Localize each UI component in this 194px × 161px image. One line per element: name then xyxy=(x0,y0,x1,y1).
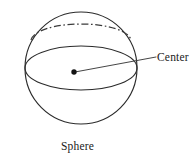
sphere-outline-circle xyxy=(25,12,137,124)
sphere-caption-label: Sphere xyxy=(61,140,94,152)
center-point-dot xyxy=(71,69,76,74)
center-label: Center xyxy=(157,51,189,63)
upper-circle-hidden-arc xyxy=(31,24,131,40)
sphere-figure: Center Sphere xyxy=(0,0,194,161)
sphere-drawing-canvas xyxy=(0,0,194,161)
center-leader-line xyxy=(75,57,156,72)
equator-ellipse xyxy=(25,46,137,90)
